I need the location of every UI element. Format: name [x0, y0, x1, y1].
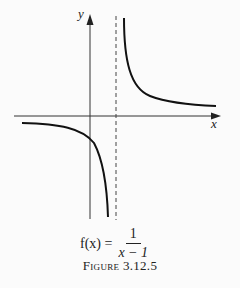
- caption-number: 3.12.5: [123, 258, 157, 273]
- figure-caption: Figure 3.12.5: [0, 258, 240, 274]
- curve-right-branch: [124, 18, 216, 106]
- function-formula: f(x) = 1 x − 1: [80, 226, 148, 261]
- y-axis-arrow-icon: [87, 14, 94, 25]
- x-axis-label: x: [211, 116, 217, 132]
- curve-left-branch: [22, 123, 108, 217]
- formula-lhs: f(x) =: [80, 236, 112, 252]
- formula-fraction: 1 x − 1: [118, 226, 148, 261]
- y-axis-label: y: [78, 6, 84, 22]
- caption-word: Figure: [83, 258, 120, 273]
- formula-numerator: 1: [126, 226, 141, 244]
